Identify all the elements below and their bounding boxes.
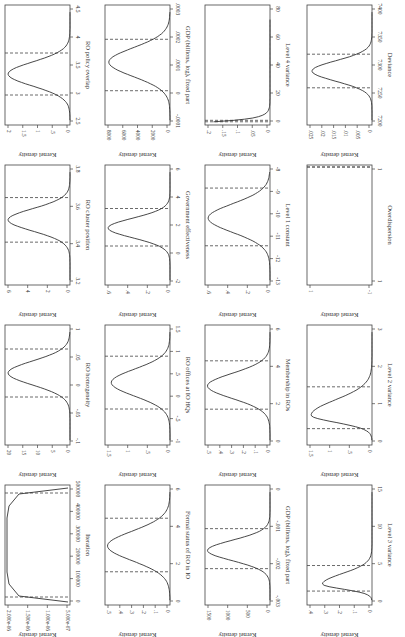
density-curve — [311, 332, 372, 440]
plot-svg: -.003-.002-.0010GDP (billions, log), fix… — [200, 480, 300, 637]
x-tick-label: 7300 — [377, 60, 383, 71]
density-plot-iteration: 0100000200000300000400000500000Iteration… — [0, 480, 100, 637]
x-tick-label: 1 — [377, 402, 383, 405]
y-tick-label: .5 — [206, 450, 212, 454]
density-plot-ro-cluster-position: 3.23.43.63.8RO cluster position0246Kerne… — [0, 160, 100, 318]
plot-svg: 0246Formal status of RO in IO0.1.2.3.4.5… — [100, 480, 200, 637]
y-axis-label: Kernel density — [118, 312, 157, 318]
plot-svg: -20246Government effectiveness0.2.4.6Ker… — [100, 160, 200, 318]
density-curve — [108, 172, 170, 280]
y-tick-label: .2 — [241, 450, 247, 454]
x-tick-label: .0001 — [175, 59, 181, 72]
plot-svg: 72007250730073507400Deviance0.005.01.015… — [302, 0, 402, 158]
y-tick-label: 5 — [50, 450, 56, 453]
density-plot-ro-homogeneity: -.1-.050.051RO homogeneity05101520Kernel… — [0, 320, 100, 478]
density-curve — [208, 492, 271, 600]
y-tick-label: 6 — [6, 290, 12, 293]
plot-frame — [307, 5, 372, 125]
x-axis-label: Government effectiveness — [185, 191, 192, 259]
x-axis-label: RO offices at IO HQs — [185, 357, 192, 414]
y-tick-label: .1 — [153, 610, 159, 614]
density-plot-membership-in-ros: 0246Membership in ROs0.1.2.3.4.5Kernel d… — [200, 320, 300, 478]
plot-svg: 2.533.544.5RO policy overlap0.511.52Kern… — [0, 0, 100, 158]
y-tick-label: .2 — [145, 290, 151, 294]
y-tick-label: 0 — [265, 610, 271, 613]
x-axis-label: RO cluster position — [85, 200, 92, 251]
y-tick-label: .5 — [347, 450, 353, 454]
y-axis-label: Kernel density — [320, 312, 359, 318]
x-axis-label: Overdispersion — [387, 205, 394, 245]
x-tick-label: 1 — [75, 328, 81, 331]
x-tick-label: -.5 — [175, 416, 181, 422]
x-tick-label: 3.5 — [75, 62, 81, 69]
x-tick-label: 10 — [377, 524, 383, 530]
y-tick-label: 0 — [367, 610, 373, 613]
x-tick-label: 0 — [175, 600, 181, 603]
y-tick-label: 2 — [45, 290, 51, 293]
x-tick-label: 4 — [75, 36, 81, 39]
density-curve — [109, 12, 170, 120]
y-tick-label: .1 — [235, 130, 241, 134]
x-tick-label: 2 — [275, 402, 281, 405]
x-tick-label: 300000 — [75, 526, 81, 543]
density-curve — [214, 20, 271, 122]
y-tick-label: .3 — [229, 450, 235, 454]
x-tick-label: 6 — [175, 168, 181, 171]
y-tick-label: 0 — [265, 130, 271, 133]
y-tick-label: .1 — [352, 610, 358, 614]
y-tick-label: 1 — [35, 130, 41, 133]
y-axis-label: Kernel density — [218, 312, 257, 318]
density-curve — [8, 12, 70, 120]
y-tick-label: .2 — [141, 610, 147, 614]
x-tick-label: 3.8 — [75, 166, 81, 173]
x-tick-label: 1 — [377, 168, 383, 171]
x-axis-label: Formal status of RO in IO — [185, 511, 192, 579]
density-plot-gdp-billions-log-fixed-part: -.00010.0001.0002.0003GDP (billions, log… — [100, 0, 200, 158]
density-curve — [7, 488, 68, 602]
x-tick-label: -.1 — [75, 438, 81, 444]
x-tick-label: 3.4 — [75, 240, 81, 247]
y-tick-label: 0 — [265, 450, 271, 453]
plot-frame — [105, 5, 170, 125]
y-tick-label: 4 — [25, 290, 31, 293]
x-axis-label: Level 4 variance — [285, 43, 292, 86]
x-tick-label: 1 — [175, 350, 181, 353]
y-axis-label: Kernel density — [18, 312, 57, 318]
x-tick-label: 7200 — [377, 116, 383, 127]
y-tick-label: 10 — [35, 450, 41, 456]
y-tick-label: 1 — [327, 450, 333, 453]
x-tick-label: 3.6 — [75, 203, 81, 210]
y-tick-label: .02 — [320, 130, 326, 137]
y-tick-label: .5 — [106, 610, 112, 614]
x-axis-label: RO homogeneity — [85, 363, 92, 408]
y-tick-label: .01 — [343, 130, 349, 137]
y-axis-label: Kernel density — [118, 632, 157, 637]
plot-svg: -1-.50.511.5RO offices at IO HQs0.511.5K… — [100, 320, 200, 478]
density-curve — [8, 332, 70, 440]
y-tick-label: -1 — [367, 290, 373, 295]
x-tick-label: -12 — [275, 255, 281, 263]
x-tick-label: 0 — [275, 440, 281, 443]
density-plot-level-3-variance: 051015Level 3 variance0.1.2.3.4Kernel de… — [302, 480, 402, 637]
y-tick-label: 2.000e-06 — [6, 610, 12, 631]
plot-frame — [205, 5, 270, 125]
plot-svg: 0100000200000300000400000500000Iteration… — [0, 480, 100, 637]
y-tick-label: .2 — [245, 290, 251, 294]
x-tick-label: 0 — [175, 92, 181, 95]
y-tick-label: 2 — [6, 130, 12, 133]
y-tick-label: 1.5 — [21, 130, 27, 137]
density-plot-level-1-constant: -13-12-11-10-9-8Level 1 constant0.2.4.6K… — [200, 160, 300, 318]
x-tick-label: 6 — [275, 328, 281, 331]
density-curve — [323, 492, 373, 600]
x-axis-label: Iteration — [85, 534, 92, 557]
x-tick-label: 1 — [377, 280, 383, 283]
rotated-figure-page: 2.533.544.5RO policy overlap0.511.52Kern… — [0, 0, 405, 637]
density-plot-deviance: 72007250730073507400Deviance0.005.01.015… — [302, 0, 402, 158]
x-axis-label: Deviance — [387, 53, 394, 78]
y-tick-label: 1500 — [206, 610, 212, 621]
x-axis-label: Level 3 variance — [387, 523, 394, 566]
x-tick-label: -2 — [175, 279, 181, 284]
plot-frame — [105, 325, 170, 445]
y-tick-label: 0 — [65, 130, 71, 133]
plot-svg: 020406080Level 4 variance0.05.1.15.2Kern… — [200, 0, 300, 158]
